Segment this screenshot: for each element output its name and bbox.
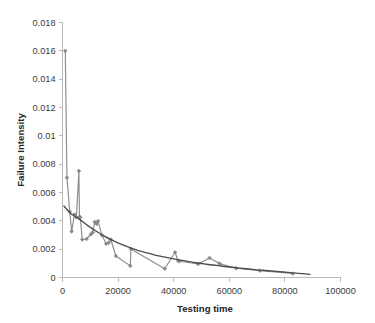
failure-intensity-chart: 00.0020.0040.0060.0080.010.0120.0140.016… [0, 0, 375, 323]
x-tick-label: 40000 [161, 286, 187, 296]
x-tick-label: 0 [60, 286, 65, 296]
y-tick-label: 0.01 [38, 131, 56, 141]
y-tick-label: 0.004 [33, 216, 56, 226]
chart-canvas: 00.0020.0040.0060.0080.010.0120.0140.016… [0, 0, 375, 323]
x-tick-label: 20000 [105, 286, 131, 296]
plot-background [0, 0, 375, 323]
y-tick-label: 0.014 [33, 74, 56, 84]
x-tick-label: 60000 [217, 286, 243, 296]
x-tick-label: 80000 [272, 286, 298, 296]
y-tick-label: 0.012 [33, 103, 56, 113]
x-axis-title: Testing time [177, 303, 233, 314]
y-tick-label: 0.002 [33, 244, 56, 254]
y-tick-label: 0.016 [33, 46, 56, 56]
y-tick-label: 0.008 [33, 159, 56, 169]
y-tick-label: 0.018 [33, 18, 56, 28]
y-tick-label: 0.006 [33, 188, 56, 198]
x-tick-label: 100000 [325, 286, 356, 296]
y-axis-title: Failure Intensity [15, 113, 26, 187]
y-tick-label: 0 [50, 273, 55, 283]
